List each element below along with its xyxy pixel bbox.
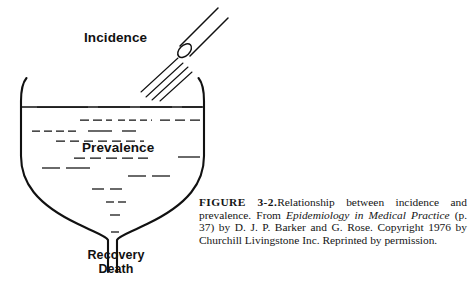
figure-caption: FIGURE 3-2.Relationship between incidenc… xyxy=(199,196,467,246)
figure-page: Incidence Prevalence Recovery Death FIGU… xyxy=(0,0,470,290)
outcome-labels: Recovery Death xyxy=(62,248,170,276)
caption-italic-title: Epidemiology in Medical Practice xyxy=(286,209,449,221)
recovery-label: Recovery xyxy=(62,248,170,262)
incidence-spray-icon xyxy=(141,58,192,101)
prevalence-label: Prevalence xyxy=(82,140,154,155)
figure-illustration: Incidence Prevalence Recovery Death xyxy=(0,0,235,290)
death-label: Death xyxy=(62,262,170,276)
incidence-label: Incidence xyxy=(84,30,147,45)
caption-figure-number: FIGURE 3-2. xyxy=(199,196,277,208)
nozzle-pipe-icon xyxy=(175,8,228,60)
